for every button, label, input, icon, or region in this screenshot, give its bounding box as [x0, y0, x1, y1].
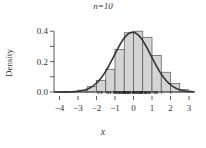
y-tick-label: 0.4	[37, 26, 49, 36]
x-axis: −4−3−2−10123	[55, 96, 192, 113]
histogram-bar	[143, 37, 152, 92]
x-tick-label: 3	[187, 103, 192, 113]
histogram-bars	[54, 31, 195, 92]
histogram-bar	[115, 49, 124, 92]
x-tick-label: −2	[92, 103, 102, 113]
histogram-bar	[134, 31, 143, 92]
y-axis: 0.00.20.4	[37, 26, 54, 97]
histogram-bar	[124, 33, 133, 92]
x-tick-label: 2	[168, 103, 173, 113]
y-tick-label: 0.2	[37, 57, 48, 67]
y-tick-label: 0.0	[37, 87, 49, 97]
x-tick-label: −4	[55, 103, 65, 113]
x-tick-label: −1	[110, 103, 120, 113]
histogram-bar	[106, 69, 115, 92]
x-tick-label: −3	[73, 103, 83, 113]
x-tick-label: 0	[131, 103, 136, 113]
x-tick-label: 1	[150, 103, 155, 113]
density-histogram-chart: 0.00.20.4 −4−3−2−10123	[0, 0, 206, 148]
